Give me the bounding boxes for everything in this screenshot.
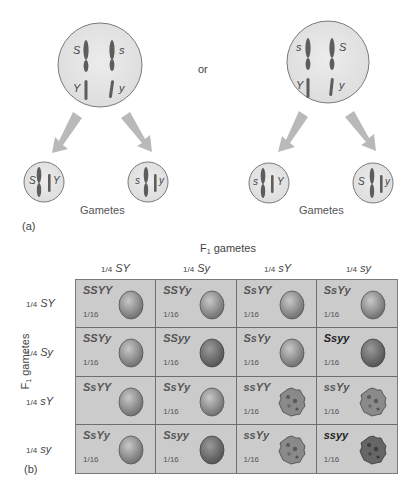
probability-label: 1/16 [244,358,260,367]
punnett-cell: SSYy1/16 [76,328,156,376]
probability-label: 1/16 [244,310,260,319]
probability-label: 1/16 [244,407,260,416]
gametes-label-right: Gametes [299,204,344,216]
punnett-cell: ssYY1/16 [237,377,317,425]
punnett-cell: SSYY1/16 [76,280,156,328]
punnett-cell: ssyy1/16 [317,425,397,473]
pea-smooth-green-icon [359,338,387,368]
column-header: 1/4 sY [237,262,318,274]
genotype-label: SsYy [324,284,351,296]
pea-wrinkled-yellow-icon [359,387,387,417]
pea-smooth-yellow-icon [278,290,306,320]
allele-label: y [339,79,345,91]
allele-label: s [253,176,258,187]
punnett-cell: SsYY [76,377,156,425]
probability-label: 1/16 [244,455,260,464]
genotype-label: SSYy [83,332,111,344]
punnett-cell: SsYY1/16 [237,280,317,328]
row-header: 1/4 SY [26,297,72,309]
or-connector: or [198,63,208,75]
punnett-cell: Ssyy1/16 [317,328,397,376]
pea-smooth-green-icon [198,435,226,465]
probability-label: 1/16 [83,310,99,319]
punnett-cell: ssYy1/16 [317,377,397,425]
pea-wrinkled-yellow-icon [278,387,306,417]
allele-label: Y [53,175,60,186]
probability-label: 1/16 [83,455,99,464]
column-header: 1/4 sy [318,262,399,274]
punnett-cell: SsYy1/16 [237,328,317,376]
allele-label: s [135,175,140,186]
allele-label: S [358,176,365,187]
pea-smooth-green-icon [198,338,226,368]
arrow-icon [52,111,376,153]
genotype-label: SSYY [83,284,112,296]
genotype-label: SsYY [244,284,272,296]
row-header: 1/4 Sy [26,346,72,358]
allele-label: Y [277,176,284,187]
genotype-label: ssYy [324,381,350,393]
pea-smooth-yellow-icon [117,290,145,320]
genotype-label: SsYY [83,381,111,393]
punnett-square: SSYY1/16SSYy1/16SsYY1/16SsYy1/16SSYy1/16… [75,279,398,474]
allele-label: S [73,44,80,56]
punnett-cell: SsYy1/16 [317,280,397,328]
allele-label: S [339,41,346,53]
pea-smooth-yellow-icon [198,290,226,320]
genotype-label: Ssyy [163,429,189,441]
column-header: 1/4 Sy [156,262,237,274]
genotype-label: ssyy [324,429,348,441]
pea-smooth-yellow-icon [359,290,387,320]
allele-label: Y [73,82,80,94]
probability-label: 1/16 [324,310,340,319]
genotype-label: ssYY [244,381,271,393]
punnett-cell: Ssyy1/16 [156,425,236,473]
gametes-label-left: Gametes [80,204,125,216]
pea-smooth-yellow-icon [278,338,306,368]
genotype-label: SsYy [83,429,110,441]
probability-label: 1/16 [83,358,99,367]
column-header: 1/4 SY [75,262,156,274]
genotype-label: SSyy [163,332,190,344]
probability-label: 1/16 [324,455,340,464]
pea-wrinkled-yellow-icon [278,435,306,465]
punnett-cell: SsYy1/16 [76,425,156,473]
side-axis-label: F1 gametes [19,327,32,397]
panel-label-b: (b) [24,463,37,475]
pea-smooth-yellow-icon [198,387,226,417]
genotype-label: SsYy [163,381,190,393]
row-header: 1/4 sy [26,443,72,455]
part-a-meiosis-diagram [0,0,419,220]
genotype-label: ssYy [244,429,270,441]
probability-label: 1/16 [163,407,179,416]
allele-label: s [119,44,125,56]
genotype-label: SSYy [163,284,191,296]
pea-wrinkled-green-icon [359,435,387,465]
allele-label: S [29,175,36,186]
allele-label: y [119,82,125,94]
punnett-cell: SsYy1/16 [156,377,236,425]
panel-label-a: (a) [22,220,35,232]
allele-label: s [296,41,302,53]
punnett-cell: SSYy1/16 [156,280,236,328]
pea-smooth-yellow-icon [117,435,145,465]
probability-label: 1/16 [324,407,340,416]
dihybrid-cross-figure: S Y s y s Y S y or S Y s y s Y S y Gamet… [0,0,419,491]
genotype-label: Ssyy [324,332,350,344]
row-header: 1/4 sY [26,395,72,407]
probability-label: 1/16 [324,358,340,367]
punnett-cell: SSyy1/16 [156,328,236,376]
parent-cell-left [58,23,142,107]
pea-smooth-yellow-icon [117,387,145,417]
probability-label: 1/16 [163,310,179,319]
pea-smooth-yellow-icon [117,338,145,368]
probability-label: 1/16 [163,455,179,464]
allele-label: y [385,176,390,187]
allele-label: y [159,175,164,186]
top-axis-label: F1 gametes [200,242,256,255]
genotype-label: SsYy [244,332,271,344]
punnett-cell: ssYy1/16 [237,425,317,473]
probability-label: 1/16 [163,358,179,367]
allele-label: Y [296,79,303,91]
